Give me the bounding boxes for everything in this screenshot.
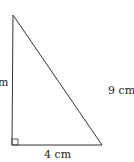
- triangle-diagram: m 9 cm 4 cm: [0, 0, 134, 162]
- right-triangle-shape: [12, 15, 102, 145]
- hypotenuse-label: 9 cm: [108, 84, 134, 97]
- right-angle-marker: [12, 139, 18, 145]
- base-label: 4 cm: [44, 148, 72, 161]
- left-side-label: m: [0, 76, 9, 89]
